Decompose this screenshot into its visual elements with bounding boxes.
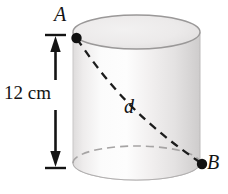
- height-dimension-label: 12 cm: [4, 83, 51, 102]
- diagonal-length-label: d: [124, 96, 134, 116]
- point-b-label: B: [207, 152, 219, 172]
- cylinder-top-face: [73, 15, 200, 49]
- point-a-label: A: [54, 4, 66, 24]
- cylinder-diagram: A B d 12 cm: [0, 0, 228, 194]
- point-a-marker: [71, 33, 81, 43]
- point-b-marker: [197, 159, 207, 169]
- cylinder-body: [73, 32, 200, 180]
- dimension-arrow-up-head: [50, 36, 60, 52]
- dimension-arrow-down-head: [50, 151, 60, 167]
